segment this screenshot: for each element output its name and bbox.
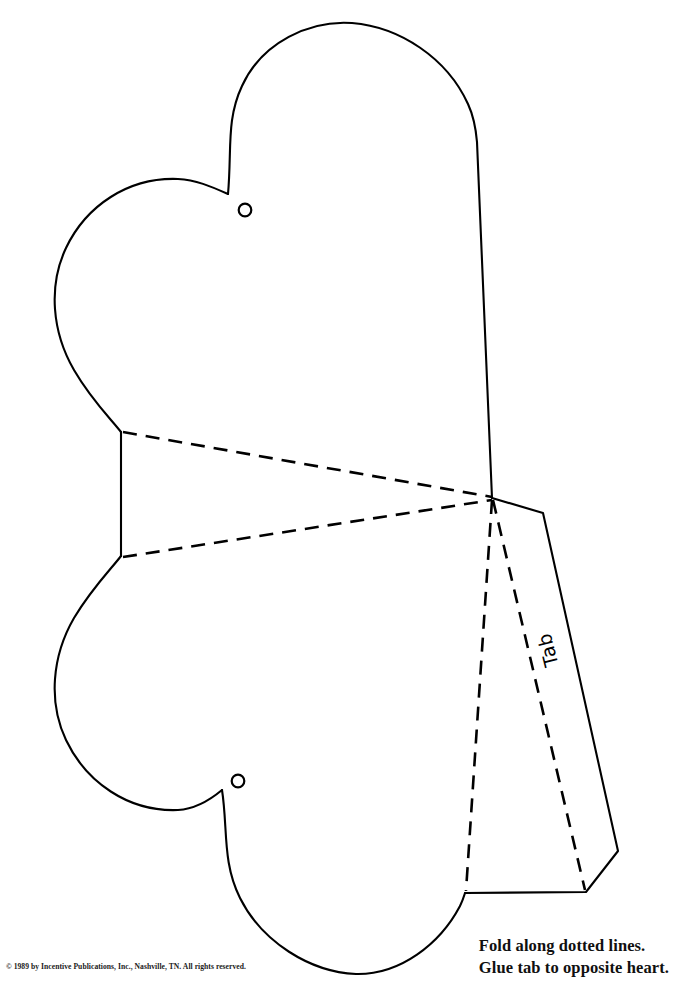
instructions-block: Fold along dotted lines. Glue tab to opp… <box>479 935 669 978</box>
copyright-notice: © 1989 by Incentive Publications, Inc., … <box>6 962 246 971</box>
upper-heart-outline <box>55 23 492 556</box>
heart-template-drawing <box>0 0 677 996</box>
lower-heart-outline <box>55 556 465 974</box>
lower-heart-bottom-lobe <box>222 790 465 974</box>
fold-line-lower <box>123 500 492 557</box>
punch-holes <box>232 204 252 788</box>
upper-heart-top-lobe-and-right-edge <box>228 23 492 498</box>
punch-hole-upper-icon <box>239 204 252 217</box>
fold-line-tab-right <box>493 500 585 890</box>
lower-heart-upper-lobe <box>55 556 222 810</box>
upper-heart-left-lobe <box>55 179 228 432</box>
fold-lines <box>123 432 585 891</box>
instruction-line-glue: Glue tab to opposite heart. <box>479 957 669 978</box>
instruction-line-fold: Fold along dotted lines. <box>479 935 669 956</box>
fold-line-upper <box>123 432 492 497</box>
fold-line-tab-left <box>466 500 492 891</box>
template-page: Tab Fold along dotted lines. Glue tab to… <box>0 0 677 996</box>
punch-hole-lower-icon <box>232 775 245 788</box>
